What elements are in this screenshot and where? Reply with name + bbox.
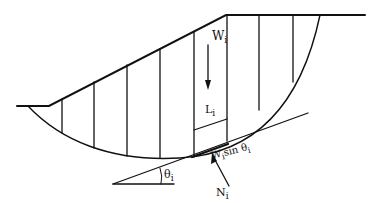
tangent-line	[113, 113, 308, 184]
slice-lines	[62, 15, 293, 158]
diagram-canvas: Wi Li Wisin θi Ni θi	[0, 0, 380, 203]
angle-arc	[160, 168, 162, 184]
weight-label: Wi	[212, 29, 227, 45]
ground-surface	[17, 15, 365, 106]
normal-label: Ni	[216, 186, 229, 201]
slope-stability-diagram: Wi Li Wisin θi Ni θi	[0, 0, 380, 203]
angle-label: θi	[164, 168, 174, 183]
failure-arc	[28, 15, 320, 158]
normal-arrow	[214, 158, 229, 186]
slice-length-line	[194, 119, 227, 130]
weight-arrowhead	[205, 80, 211, 90]
length-label: Li	[205, 103, 215, 118]
